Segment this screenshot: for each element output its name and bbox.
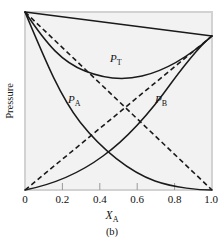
x-tick-label-3: 0.6 [130, 193, 144, 205]
curve-label-pa-sub: A [75, 99, 81, 108]
vapor-pressure-diagram: PT PA PB 0 0.2 0.4 0.6 0.8 1.0 XA (b) Pr… [0, 0, 223, 240]
x-axis-label: XA [105, 209, 119, 224]
x-tick-label-0: 0 [22, 193, 28, 205]
x-tick-label-1: 0.2 [56, 193, 70, 205]
x-tick-labels: 0 0.2 0.4 0.6 0.8 1.0 [22, 193, 218, 205]
y-axis-label: Pressure [4, 83, 15, 119]
x-tick-label-4: 0.8 [168, 193, 182, 205]
x-tick-label-2: 0.4 [93, 193, 107, 205]
curve-label-pt-sub: T [117, 58, 122, 67]
plot-background [25, 12, 212, 190]
curve-label-pb-sub: B [162, 99, 167, 108]
x-tick-label-5: 1.0 [204, 193, 218, 205]
figure-caption: (b) [106, 226, 119, 238]
x-axis-label-sub: A [113, 215, 119, 224]
